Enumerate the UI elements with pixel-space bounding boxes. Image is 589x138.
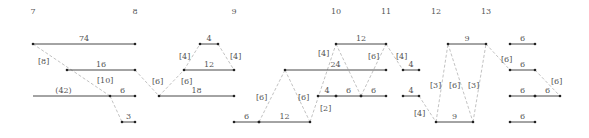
activity-bar: 6: [233, 112, 261, 123]
bar-duration-label: 6: [346, 86, 351, 95]
column-header: 7: [30, 7, 35, 16]
column-header: 13: [481, 7, 491, 16]
bar-duration-label: 6: [371, 86, 376, 95]
bar-duration-label: 6: [520, 86, 525, 95]
bar-duration-label: 4: [324, 86, 329, 95]
end-node: [134, 43, 137, 46]
bar-duration-label: 12: [356, 34, 366, 43]
activity-bar: 6: [509, 34, 537, 45]
start-node: [109, 95, 112, 98]
end-node: [134, 121, 137, 124]
link-lag-label: [6]: [449, 81, 460, 90]
column-header: 10: [331, 7, 341, 16]
activity-bar: 4: [402, 86, 421, 97]
bar-duration-label: 6: [520, 60, 525, 69]
activity-bar: 9: [435, 112, 475, 123]
link-lag-label: [6]: [152, 77, 163, 86]
start-node: [447, 43, 450, 46]
activity-bar: 74: [32, 34, 137, 45]
link-lag-label: [4]: [179, 52, 190, 61]
dependency-link: [110, 96, 122, 122]
activity-bar: 12: [258, 112, 312, 123]
bar-duration-label: 74: [79, 34, 89, 43]
activity-bar: 24: [284, 60, 388, 71]
link-lag-label: [6]: [256, 93, 267, 102]
activity-bar: 6: [534, 86, 562, 97]
link-lag-label: [4]: [230, 52, 241, 61]
start-node: [509, 95, 512, 98]
start-node: [121, 121, 124, 124]
bar-duration-label: 6: [545, 86, 550, 95]
end-node: [385, 95, 388, 98]
bar-duration-label: 18: [191, 86, 201, 95]
start-node: [509, 69, 512, 72]
activity-bar: 4: [199, 34, 220, 45]
start-node: [199, 43, 202, 46]
start-node: [284, 69, 287, 72]
slack-label: (42): [55, 86, 71, 95]
activity-bar: 6: [360, 86, 388, 97]
link-lag-label: [6]: [368, 52, 379, 61]
start-node: [534, 95, 537, 98]
bar-duration-label: 6: [520, 112, 525, 121]
end-node: [217, 43, 220, 46]
end-node: [385, 43, 388, 46]
link-lag-label: [8]: [38, 57, 49, 66]
activity-bar: 3: [121, 112, 137, 123]
link-lag-label: [6]: [298, 93, 309, 102]
column-headers: 78910111213: [30, 7, 491, 16]
schedule-diagram: 78910111213 [8][10][6][6][4][4][6][6][2]…: [0, 0, 589, 138]
link-lag-label: [3]: [430, 81, 441, 90]
link-lag-label: [3]: [468, 81, 479, 90]
start-node: [509, 43, 512, 46]
start-node: [335, 95, 338, 98]
bar-duration-label: 24: [330, 60, 340, 69]
start-node: [335, 43, 338, 46]
activity-bar: 9: [447, 34, 488, 45]
start-node: [435, 121, 438, 124]
end-node: [559, 95, 562, 98]
link-lag-label: [2]: [320, 104, 331, 113]
link-lag-label: [4]: [396, 52, 407, 61]
activity-bar: 18: [158, 86, 236, 97]
activity-bar: 6: [509, 86, 537, 97]
bar-duration-label: 6: [244, 112, 249, 121]
activity-bar: 12: [335, 34, 388, 45]
bar-duration-label: 3: [126, 112, 131, 121]
slack-line: (42): [33, 86, 110, 96]
end-node: [134, 95, 137, 98]
column-header: 12: [431, 7, 441, 16]
column-header: 8: [132, 7, 137, 16]
start-node: [402, 95, 405, 98]
start-node: [258, 121, 261, 124]
end-node: [309, 121, 312, 124]
activity-bar: 6: [109, 86, 137, 97]
link-lag-label: [4]: [318, 49, 329, 58]
column-header: 9: [231, 7, 236, 16]
link-lag-label: [6]: [181, 77, 192, 86]
bar-duration-label: 12: [204, 60, 214, 69]
start-node: [402, 69, 405, 72]
link-lag-label: [4]: [414, 109, 425, 118]
end-node: [385, 69, 388, 72]
start-node: [66, 69, 69, 72]
end-node: [534, 121, 537, 124]
activity-bar: 4: [402, 60, 421, 71]
start-node: [158, 95, 161, 98]
end-node: [233, 69, 236, 72]
end-node: [134, 69, 137, 72]
activity-bar: 12: [183, 60, 236, 71]
bar-duration-label: 9: [452, 112, 457, 121]
end-node: [534, 69, 537, 72]
activity-bar: 6: [335, 86, 363, 97]
end-node: [233, 95, 236, 98]
bar-duration-label: 6: [520, 34, 525, 43]
bar-duration-label: 12: [279, 112, 289, 121]
bar-duration-label: 6: [120, 86, 125, 95]
link-lag-label: [6]: [501, 55, 512, 64]
bar-duration-label: 16: [96, 60, 106, 69]
link-lag-label: [6]: [551, 77, 562, 86]
start-node: [183, 69, 186, 72]
dashed-links: [8][10][6][6][4][4][6][6][2][4][6][4][4]…: [33, 44, 562, 122]
activity-bar: 6: [509, 60, 537, 71]
